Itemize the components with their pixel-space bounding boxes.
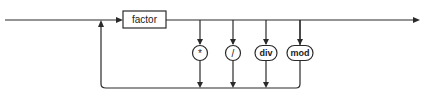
operator-div: div (255, 20, 277, 88)
exit-arrow (413, 17, 420, 23)
operator-label: mod (291, 48, 310, 58)
factor-nonterminal: factor (123, 11, 166, 28)
operator-multiply: * (193, 20, 208, 88)
operator-label: / (232, 48, 235, 59)
operator-divide: / (226, 20, 241, 88)
loop-arrow-up (98, 20, 104, 27)
syntax-diagram: factor * / div mod (0, 0, 427, 95)
operator-label: div (259, 48, 272, 58)
arrow-into-factor (116, 17, 123, 23)
factor-label: factor (132, 14, 158, 25)
operator-mod: mod (287, 20, 313, 61)
operator-label: * (198, 48, 202, 59)
